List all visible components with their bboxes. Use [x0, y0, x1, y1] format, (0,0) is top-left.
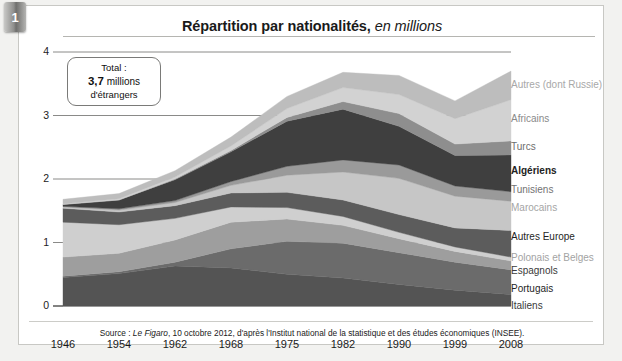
source-publication: Le Figaro	[133, 328, 168, 338]
x-axis-tick-label: 1962	[153, 338, 197, 350]
y-axis-tick-label: 3	[33, 109, 49, 121]
legend-item: Polonais et Belges	[511, 252, 594, 263]
legend-item: Algériens	[511, 165, 557, 176]
source-rest: , 10 octobre 2012, d'après l'Institut na…	[168, 328, 524, 338]
x-axis-tick-label: 1954	[97, 338, 141, 350]
legend-item: Tunisiens	[511, 184, 553, 195]
y-axis-tick-label: 2	[33, 172, 49, 184]
chart-title: Répartition par nationalités, en million…	[19, 18, 605, 34]
x-axis-tick-label: 1982	[321, 338, 365, 350]
figure-number-tab: 1	[4, 2, 26, 32]
y-axis-tick-label: 1	[33, 236, 49, 248]
legend-item: Africains	[511, 113, 549, 124]
callout-line-1: Total :	[101, 62, 126, 74]
x-axis-tick-label: 1975	[265, 338, 309, 350]
total-callout: Total : 3,7 millions d'étrangers	[67, 57, 161, 106]
x-axis-tick-label: 2008	[489, 338, 533, 350]
callout-total-unit: millions	[104, 76, 140, 87]
legend-item: Espagnols	[511, 265, 558, 276]
source-prefix: Source :	[100, 328, 133, 338]
callout-line-3: d'étrangers	[90, 89, 137, 101]
y-axis-tick-label: 0	[33, 299, 49, 311]
callout-line-2: 3,7 millions	[88, 74, 140, 89]
source-note: Source : Le Figaro, 10 octobre 2012, d'a…	[19, 328, 605, 338]
figure-panel: Répartition par nationalités, en million…	[18, 5, 604, 345]
chart-title-main: Répartition par nationalités,	[182, 18, 371, 34]
x-axis-tick-label: 1968	[209, 338, 253, 350]
legend-item: Marocains	[511, 202, 557, 213]
legend-item: Autres Europe	[511, 231, 575, 242]
x-axis-tick-label: 1990	[377, 338, 421, 350]
chart-title-emphasis: en millions	[371, 18, 442, 34]
x-axis-tick-label: 1999	[433, 338, 477, 350]
legend-item: Italiens	[511, 300, 543, 311]
plot-area: 01234 1946195419621968197519821990199920…	[19, 36, 605, 321]
legend-item: Portugais	[511, 283, 553, 294]
y-axis-tick-label: 4	[33, 45, 49, 57]
callout-total-value: 3,7	[88, 75, 104, 87]
x-axis: 194619541962196819751982199019992008	[19, 336, 605, 356]
x-axis-tick-label: 1946	[41, 338, 85, 350]
legend-item: Autres (dont Russie)	[511, 79, 602, 90]
legend-item: Turcs	[511, 141, 536, 152]
source-divider	[29, 321, 593, 322]
